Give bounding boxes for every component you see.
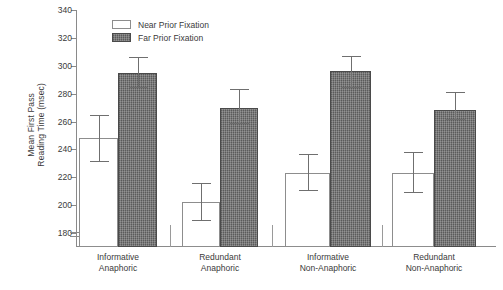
error-bar-cap-bottom: [90, 161, 109, 162]
error-bar-stem: [239, 89, 240, 124]
legend-item-near: Near Prior Fixation: [112, 18, 209, 31]
error-bar-cap-bottom: [404, 192, 423, 193]
error-bar-cap-bottom: [342, 87, 361, 88]
error-bar-cap-top: [129, 57, 148, 58]
error-bar-cap-bottom: [299, 190, 318, 191]
y-axis-title-line-2: Reading Time (msec): [37, 83, 46, 167]
error-bar-cap-top: [342, 56, 361, 57]
bar-far-group-3: [330, 71, 371, 247]
error-bar-stem: [413, 152, 414, 192]
error-bar-cap-top: [230, 89, 249, 90]
legend-label-far: Far Prior Fixation: [138, 33, 203, 43]
x-axis-label-line-1: Redundant: [384, 252, 484, 263]
error-bar-stem: [455, 92, 456, 120]
error-bar-cap-bottom: [446, 119, 465, 120]
error-bar-stem: [138, 57, 139, 88]
error-bar-cap-bottom: [230, 123, 249, 124]
error-bar-stem: [308, 154, 309, 192]
y-tick-label: 240: [58, 144, 72, 154]
error-bar-cap-top: [90, 115, 109, 116]
group-divider-3: [382, 225, 383, 247]
error-bar-cap-top: [446, 92, 465, 93]
x-axis-label-line-1: Informative: [68, 252, 168, 263]
bar-far-group-1: [118, 73, 157, 247]
y-tick-label: 340: [58, 5, 72, 15]
y-axis-line: [76, 10, 77, 247]
x-axis-label-group-4: RedundantNon-Anaphoric: [384, 252, 484, 274]
error-bar-cap-top: [299, 154, 318, 155]
group-divider-2: [272, 225, 273, 247]
y-tick-label: 320: [58, 33, 72, 43]
error-bar-cap-top: [192, 183, 211, 184]
bar-far-group-4: [434, 110, 476, 247]
group-divider-1: [170, 225, 171, 247]
x-axis-label-group-2: RedundantAnaphoric: [170, 252, 270, 274]
plot-area: 180200220240260280300320340: [76, 10, 496, 247]
y-axis-title: Mean First Pass Reading Time (msec): [14, 0, 58, 250]
legend-label-near: Near Prior Fixation: [138, 20, 209, 30]
legend-swatch-far-icon: [112, 33, 131, 42]
y-tick-label: 260: [58, 117, 72, 127]
error-bar-cap-top: [404, 152, 423, 153]
error-bar-cap-bottom: [129, 87, 148, 88]
error-bar-stem: [99, 115, 100, 162]
x-axis-label-line-2: Non-Anaphoric: [278, 263, 378, 274]
x-axis-label-line-2: Anaphoric: [68, 263, 168, 274]
error-bar-stem: [201, 183, 202, 221]
x-axis-label-group-1: InformativeAnaphoric: [68, 252, 168, 274]
legend-item-far: Far Prior Fixation: [112, 31, 209, 44]
y-tick-label: 300: [58, 61, 72, 71]
y-axis-title-line-1: Mean First Pass: [27, 93, 36, 157]
y-tick-label: 220: [58, 172, 72, 182]
legend-swatch-near-icon: [112, 20, 131, 29]
x-axis-label-line-2: Anaphoric: [170, 263, 270, 274]
error-bar-stem: [351, 56, 352, 88]
x-axis-label-line-2: Non-Anaphoric: [384, 263, 484, 274]
x-axis-label-line-1: Informative: [278, 252, 378, 263]
y-tick-label: 200: [58, 200, 72, 210]
y-tick-label: 280: [58, 89, 72, 99]
x-axis-label-line-1: Redundant: [170, 252, 270, 263]
legend: Near Prior Fixation Far Prior Fixation: [112, 18, 209, 44]
x-axis-label-group-3: InformativeNon-Anaphoric: [278, 252, 378, 274]
error-bar-cap-bottom: [192, 220, 211, 221]
bar-chart-figure: Mean First Pass Reading Time (msec) 1802…: [0, 0, 503, 290]
bar-far-group-2: [220, 108, 258, 247]
